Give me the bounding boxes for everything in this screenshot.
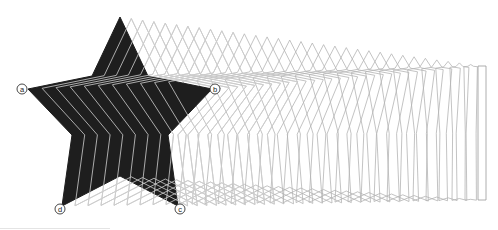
vertex-label-d: d — [55, 204, 65, 214]
svg-text:c: c — [178, 205, 182, 214]
wireframe-frame — [183, 34, 307, 204]
vertex-label-a: a — [17, 84, 27, 94]
svg-text:b: b — [213, 85, 217, 94]
wireframe-frame — [380, 55, 427, 201]
star-shape — [28, 17, 212, 206]
wireframe-frame — [408, 58, 444, 201]
star-morph-diagram: a b c d — [0, 0, 498, 230]
svg-text:d: d — [58, 205, 62, 214]
wireframe-frame — [436, 61, 461, 200]
vertex-label-b: b — [210, 84, 220, 94]
vertex-label-c: c — [175, 204, 185, 214]
bottom-rule — [0, 228, 110, 229]
wireframe-frame — [478, 66, 486, 200]
